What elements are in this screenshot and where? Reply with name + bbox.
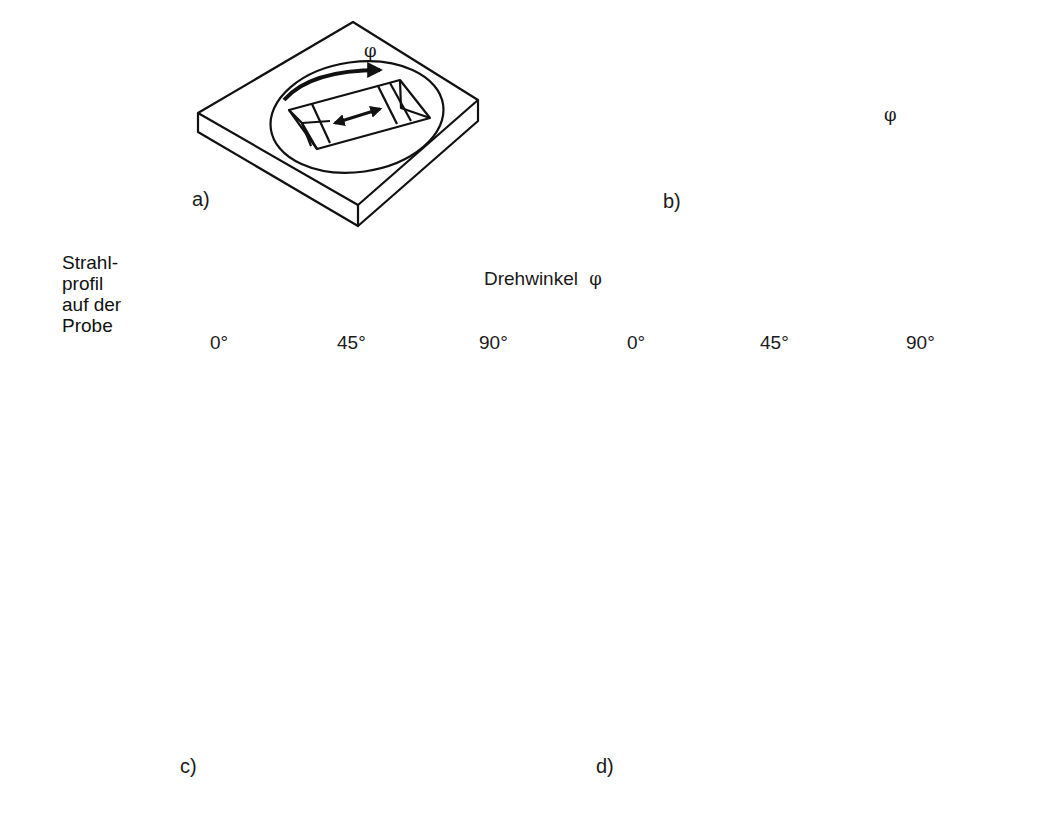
angle-header-d-0: 0° [627, 332, 645, 354]
panel-c-label: c) [180, 755, 197, 778]
column-group-title: Drehwinkel φ [484, 268, 602, 290]
angle-header-d-90: 90° [906, 332, 935, 354]
figure-a-rotation-stage [198, 22, 478, 226]
row-header-line: Strahl- [62, 252, 121, 273]
angle-header-c-0: 0° [210, 332, 228, 354]
phi-symbol-header: φ [589, 268, 602, 289]
panel-d-label: d) [596, 755, 614, 778]
phi-symbol-a: φ [364, 40, 377, 61]
row-header-line: profil [62, 273, 121, 294]
angle-header-d-45: 45° [760, 332, 789, 354]
figure-a-label: a) [192, 188, 210, 211]
phi-symbol-b: φ [884, 104, 897, 125]
row-header-cell: Strahl- profil auf der Probe [62, 252, 121, 336]
angle-header-c-45: 45° [337, 332, 366, 354]
row-header-line: auf der [62, 294, 121, 315]
angle-header-c-90: 90° [479, 332, 508, 354]
row-header-line: Probe [62, 315, 121, 336]
column-group-title-text: Drehwinkel [484, 268, 578, 289]
figure-b-label: b) [663, 190, 681, 213]
